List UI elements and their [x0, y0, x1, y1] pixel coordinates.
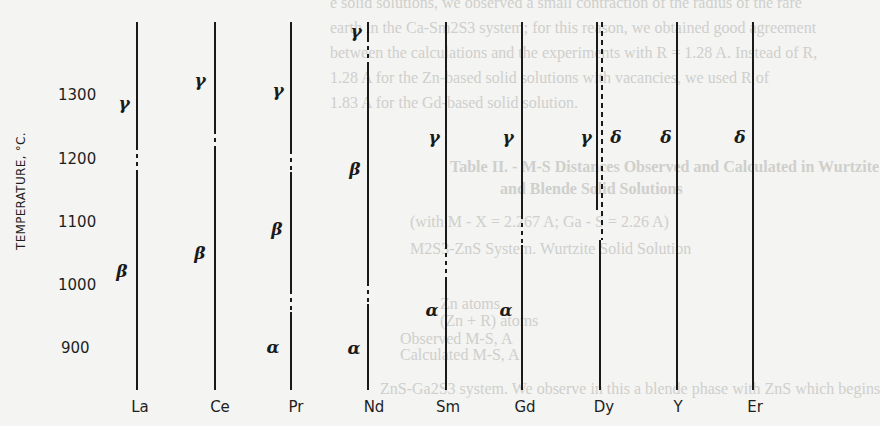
phase-y-delta: δ	[660, 127, 671, 147]
phase-sm-alpha: α	[425, 300, 438, 320]
y-tick-1000: 1000	[58, 276, 96, 294]
phase-dy-gamma: γ	[580, 127, 591, 147]
x-label-la: La	[131, 398, 149, 416]
x-label-er: Er	[747, 398, 763, 416]
phase-pr-alpha: α	[266, 337, 279, 357]
phase-la-beta: β	[116, 261, 127, 281]
phase-dy-delta: δ	[610, 127, 621, 147]
x-label-sm: Sm	[436, 398, 460, 416]
y-tick-1300: 1300	[58, 86, 96, 104]
x-label-nd: Nd	[364, 398, 385, 416]
phase-nd-beta: β	[349, 159, 360, 179]
phase-nd-gamma: γ	[350, 21, 361, 41]
phase-pr-gamma: γ	[272, 80, 283, 100]
phase-la-gamma: γ	[118, 93, 129, 113]
x-label-pr: Pr	[289, 398, 304, 416]
phase-ce-gamma: γ	[194, 70, 205, 90]
phase-er-delta: δ	[734, 127, 745, 147]
y-tick-1100: 1100	[58, 213, 96, 231]
phase-gd-alpha: α	[499, 300, 512, 320]
x-label-y: Y	[673, 398, 682, 416]
phase-gd-gamma: γ	[502, 127, 513, 147]
y-axis-label: TEMPERATURE, °C.	[14, 132, 28, 250]
y-tick-1200: 1200	[58, 150, 96, 168]
phase-nd-alpha: α	[347, 338, 360, 358]
line-dy	[597, 22, 602, 390]
phase-pr-beta: β	[271, 219, 282, 239]
x-label-dy: Dy	[594, 398, 614, 416]
x-label-ce: Ce	[210, 398, 230, 416]
phase-sm-gamma: γ	[428, 127, 439, 147]
phase-ce-beta: β	[194, 243, 205, 263]
x-label-gd: Gd	[514, 398, 535, 416]
y-tick-900: 900	[61, 339, 90, 357]
